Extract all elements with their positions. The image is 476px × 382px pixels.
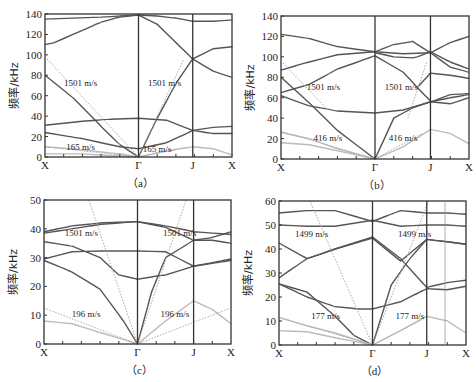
velocity-annotation: 1501 m/s	[385, 82, 419, 92]
series-band4	[375, 52, 469, 69]
y-tick-label: 80	[267, 71, 279, 83]
x-tick-label: J	[428, 161, 433, 173]
y-tick-label: 30	[265, 267, 277, 279]
y-tick-label: 0	[36, 338, 42, 350]
y-tick-label: 50	[30, 194, 42, 206]
x-tick-label: X	[228, 159, 236, 171]
y-tick-label: 20	[267, 133, 279, 145]
y-axis-label: 频率/kHz	[7, 62, 21, 108]
x-tick-label: J	[191, 346, 196, 358]
velocity-annotation: 1501 m/s	[148, 78, 182, 88]
x-tick-label: Γ	[135, 159, 141, 171]
x-tick-label: J	[191, 159, 196, 171]
y-tick-label: 40	[30, 223, 42, 235]
y-axis-label: 频率/kHz	[6, 249, 20, 295]
x-tick-label: X	[40, 346, 48, 358]
y-tick-label: 100	[262, 51, 279, 63]
series-band5	[44, 261, 138, 345]
y-tick-label: 20	[31, 131, 43, 143]
panel-caption: （b）	[363, 179, 391, 191]
chart-panel-b: XΓJX020406080100120140频率/kHz1501 m/s1501…	[243, 10, 473, 191]
velocity-annotation: 1501 m/s	[65, 228, 99, 238]
velocity-annotation: 1501 m/s	[64, 78, 98, 88]
velocity-annotation: 165 m/s	[143, 144, 172, 154]
y-tick-label: 0	[37, 151, 43, 163]
velocity-annotation: 177 m/s	[311, 311, 340, 321]
series-band4	[139, 47, 233, 157]
y-tick-label: 80	[31, 69, 43, 81]
velocity-annotation: 1501 m/s	[307, 82, 341, 92]
y-tick-label: 140	[262, 10, 279, 22]
y-tick-label: 0	[271, 339, 277, 351]
panel-caption: （d）	[361, 365, 389, 377]
y-axis-label: 频率/kHz	[241, 250, 255, 296]
y-tick-label: 60	[267, 92, 279, 104]
x-tick-label: X	[227, 346, 235, 358]
series-slope-1501-right	[139, 60, 184, 157]
panel-caption: （c）	[126, 364, 153, 376]
series-band8	[417, 73, 469, 87]
velocity-annotation: 177 m/s	[396, 311, 425, 321]
velocity-annotation: 1501 m/s	[163, 228, 197, 238]
band-structure-figure: XΓJX020406080100120140频率/kHz1501 m/s1501…	[0, 0, 476, 382]
y-tick-label: 40	[265, 243, 277, 255]
velocity-annotation: 416 m/s	[389, 133, 418, 143]
x-tick-label: X	[465, 161, 473, 173]
x-tick-label: Γ	[369, 347, 375, 359]
velocity-annotation: 1499 m/s	[295, 229, 329, 239]
chart-panel-a: XΓJX020406080100120140频率/kHz1501 m/s1501…	[7, 8, 236, 189]
x-tick-label: Γ	[372, 161, 378, 173]
y-tick-label: 0	[273, 153, 279, 165]
velocity-annotation: 165 m/s	[66, 142, 95, 152]
y-tick-label: 60	[31, 90, 43, 102]
y-tick-label: 100	[26, 49, 43, 61]
series-slope-1501-right	[138, 200, 187, 344]
x-tick-label: X	[277, 161, 285, 173]
y-tick-label: 30	[30, 252, 42, 264]
x-tick-label: J	[425, 347, 430, 359]
chart-panel-c: XΓJX01020304050频率/kHz1501 m/s1501 m/s196…	[6, 194, 235, 376]
x-tick-label: Γ	[134, 346, 140, 358]
series-band3	[139, 15, 233, 77]
series-band6	[138, 240, 232, 344]
y-tick-label: 60	[265, 195, 277, 207]
y-tick-label: 10	[265, 315, 277, 327]
y-tick-label: 120	[26, 28, 43, 40]
y-tick-label: 20	[30, 280, 42, 292]
y-tick-label: 40	[31, 110, 43, 122]
panel-caption: （a）	[127, 177, 154, 189]
y-tick-label: 20	[265, 291, 277, 303]
x-tick-label: X	[41, 159, 49, 171]
x-tick-label: X	[462, 347, 470, 359]
y-tick-label: 120	[262, 30, 279, 42]
x-tick-label: X	[275, 347, 283, 359]
y-tick-label: 10	[30, 309, 42, 321]
velocity-annotation: 196 m/s	[72, 309, 101, 319]
y-axis-label: 频率/kHz	[243, 64, 257, 110]
y-tick-label: 140	[26, 8, 43, 20]
velocity-annotation: 416 m/s	[314, 133, 343, 143]
y-tick-label: 40	[267, 112, 279, 124]
series-band7	[375, 95, 469, 159]
velocity-annotation: 196 m/s	[161, 309, 190, 319]
velocity-annotation: 1499 m/s	[398, 229, 432, 239]
y-tick-label: 50	[265, 219, 277, 231]
chart-panel-d: XΓJX0102030405060频率/kHz1499 m/s1499 m/s1…	[241, 195, 470, 377]
series-band2	[45, 15, 139, 45]
